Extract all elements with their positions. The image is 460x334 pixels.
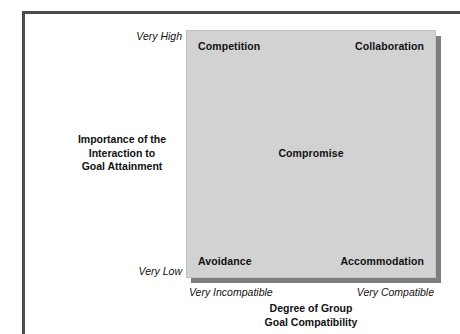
y-axis-title-line-1: Importance of the xyxy=(62,133,182,147)
x-axis-title-line-2: Goal Compatibility xyxy=(186,316,436,330)
matrix-cell-collaboration: Collaboration xyxy=(355,40,424,52)
x-axis-low-scale-label: Very Incompatible xyxy=(189,286,273,298)
page-frame-left-border xyxy=(22,11,25,334)
matrix-cell-avoidance: Avoidance xyxy=(198,255,252,267)
x-axis-high-scale-label: Very Compatible xyxy=(357,286,434,298)
matrix-cell-competition: Competition xyxy=(198,40,260,52)
y-axis-high-scale-label: Very High xyxy=(136,30,182,42)
y-axis-title-line-2: Interaction to xyxy=(62,147,182,161)
x-axis-title: Degree of Group Goal Compatibility xyxy=(186,302,436,329)
matrix-cell-compromise: Compromise xyxy=(278,147,343,159)
matrix-drop-shadow-right xyxy=(436,36,441,283)
matrix-drop-shadow-bottom xyxy=(191,278,441,283)
y-axis-title-line-3: Goal Attainment xyxy=(62,160,182,174)
y-axis-low-scale-label: Very Low xyxy=(139,265,182,277)
y-axis-title: Importance of the Interaction to Goal At… xyxy=(62,133,182,174)
matrix-cell-accommodation: Accommodation xyxy=(340,255,424,267)
page-frame-top-border xyxy=(22,11,460,14)
x-axis-title-line-1: Degree of Group xyxy=(186,302,436,316)
